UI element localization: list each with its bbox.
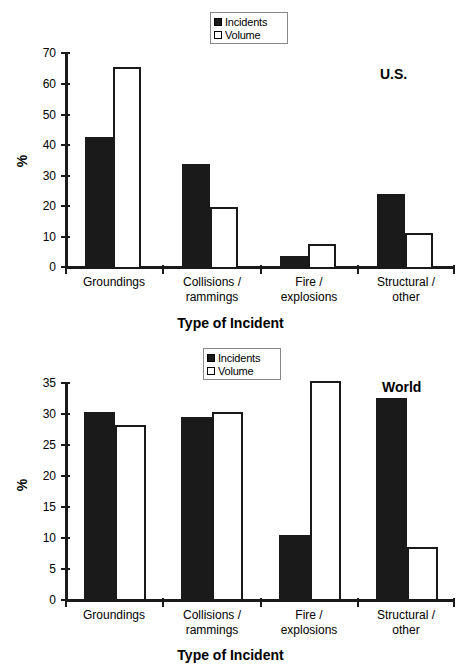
bar-volume-groundings bbox=[115, 425, 146, 599]
x-tick-world bbox=[260, 598, 262, 607]
x-tick-us bbox=[162, 265, 164, 274]
y-tick-label-world: 30 bbox=[26, 407, 56, 421]
y-tick-label-world: 0 bbox=[26, 593, 56, 607]
plot-area-world: 35 30 25 20 15 10 5 0 bbox=[0, 335, 461, 635]
x-tick-world bbox=[65, 598, 67, 607]
y-tick-world bbox=[61, 537, 70, 539]
x-category-line: rammings bbox=[162, 290, 262, 305]
y-tick-world bbox=[61, 506, 70, 508]
y-tick-us bbox=[61, 144, 70, 146]
x-category-line: explosions bbox=[259, 623, 359, 638]
y-tick-world bbox=[61, 413, 70, 415]
y-tick-label-us: 30 bbox=[26, 169, 56, 183]
plot-area-us: 70 60 50 40 30 20 10 0 bbox=[0, 0, 461, 300]
y-tick-label-world: 10 bbox=[26, 531, 56, 545]
x-axis-title-us: Type of Incident bbox=[0, 315, 461, 331]
y-tick-label-us: 0 bbox=[26, 260, 56, 274]
x-tick-us bbox=[357, 265, 359, 274]
x-category-label-groundings: Groundings bbox=[64, 608, 164, 623]
y-tick-us bbox=[61, 52, 70, 54]
bar-incidents-collisions bbox=[182, 164, 210, 267]
y-tick-label-us: 50 bbox=[26, 108, 56, 122]
bar-volume-structural bbox=[405, 233, 433, 267]
y-tick-world bbox=[61, 444, 70, 446]
bar-volume-fire bbox=[308, 244, 336, 267]
x-tick-world bbox=[453, 598, 455, 607]
bar-incidents-fire bbox=[280, 256, 308, 267]
bar-volume-structural bbox=[407, 547, 438, 599]
bar-incidents-structural bbox=[376, 398, 407, 599]
bar-volume-groundings bbox=[113, 67, 141, 267]
bar-volume-fire bbox=[310, 381, 341, 599]
x-category-label-groundings: Groundings bbox=[64, 275, 164, 290]
y-tick-us bbox=[61, 83, 70, 85]
x-category-line: Structural / bbox=[356, 275, 456, 290]
y-tick-label-world: 20 bbox=[26, 469, 56, 483]
y-tick-label-world: 35 bbox=[26, 376, 56, 390]
x-tick-us bbox=[65, 265, 67, 274]
x-tick-us bbox=[453, 265, 455, 274]
x-category-label-structural: Structural / other bbox=[356, 608, 456, 638]
y-tick-label-us: 10 bbox=[26, 230, 56, 244]
y-tick-us bbox=[61, 114, 70, 116]
x-category-line: Collisions / bbox=[162, 608, 262, 623]
bar-incidents-fire bbox=[279, 535, 310, 599]
x-category-line: rammings bbox=[162, 623, 262, 638]
bar-incidents-groundings bbox=[85, 137, 113, 267]
x-category-line: Structural / bbox=[356, 608, 456, 623]
y-tick-world bbox=[61, 382, 70, 384]
y-tick-label-us: 70 bbox=[26, 46, 56, 60]
x-category-label-fire: Fire / explosions bbox=[259, 275, 359, 305]
chart-panel-world: Incidents Volume World % 35 30 25 20 15 … bbox=[0, 335, 461, 670]
y-tick-us bbox=[61, 205, 70, 207]
x-category-label-fire: Fire / explosions bbox=[259, 608, 359, 638]
x-category-line: Collisions / bbox=[162, 275, 262, 290]
bar-incidents-groundings bbox=[84, 412, 115, 599]
x-category-line: other bbox=[356, 290, 456, 305]
x-category-line: Fire / bbox=[259, 275, 359, 290]
y-tick-label-world: 25 bbox=[26, 438, 56, 452]
x-category-label-structural: Structural / other bbox=[356, 275, 456, 305]
bar-incidents-structural bbox=[377, 194, 405, 267]
y-tick-us bbox=[61, 236, 70, 238]
chart-panel-us: Incidents Volume U.S. % 70 60 50 40 30 2… bbox=[0, 0, 461, 335]
y-tick-label-world: 5 bbox=[26, 562, 56, 576]
y-tick-label-us: 40 bbox=[26, 138, 56, 152]
x-category-line: Fire / bbox=[259, 608, 359, 623]
x-tick-us bbox=[260, 265, 262, 274]
x-category-line: explosions bbox=[259, 290, 359, 305]
x-tick-world bbox=[357, 598, 359, 607]
bar-volume-collisions bbox=[210, 207, 238, 267]
x-category-label-collisions: Collisions / rammings bbox=[162, 608, 262, 638]
y-tick-label-world: 15 bbox=[26, 500, 56, 514]
y-tick-world bbox=[61, 475, 70, 477]
x-category-label-collisions: Collisions / rammings bbox=[162, 275, 262, 305]
bar-incidents-collisions bbox=[181, 417, 212, 599]
y-tick-label-us: 60 bbox=[26, 77, 56, 91]
x-category-line: other bbox=[356, 623, 456, 638]
y-tick-world bbox=[61, 568, 70, 570]
y-tick-us bbox=[61, 175, 70, 177]
y-tick-label-us: 20 bbox=[26, 199, 56, 213]
x-category-line: Groundings bbox=[64, 275, 164, 290]
x-tick-world bbox=[162, 598, 164, 607]
x-category-line: Groundings bbox=[64, 608, 164, 623]
bar-volume-collisions bbox=[212, 412, 243, 599]
x-axis-title-world: Type of Incident bbox=[0, 647, 461, 663]
